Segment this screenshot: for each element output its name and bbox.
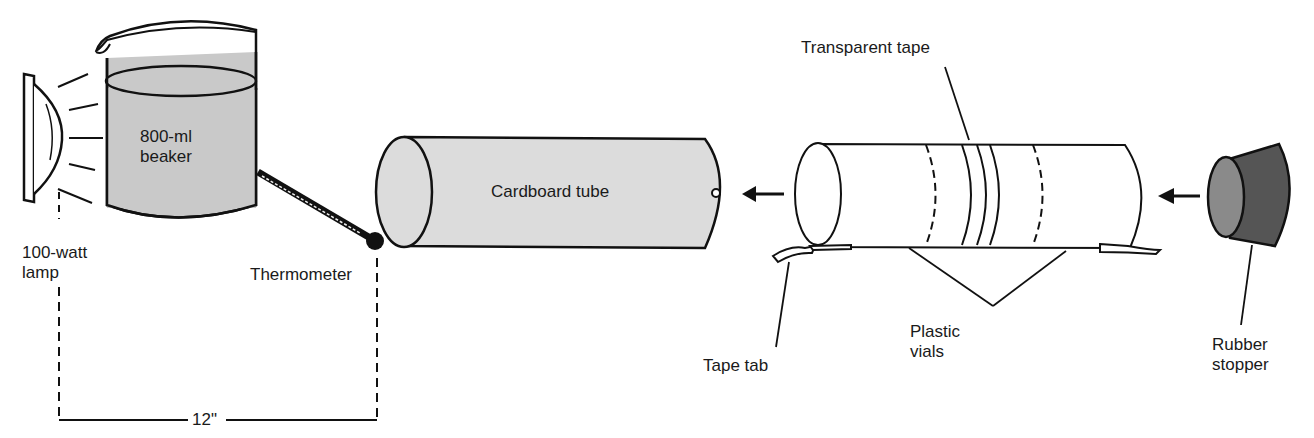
- beaker-label-line2: beaker: [140, 147, 192, 167]
- arrow-left-icon: [1158, 188, 1200, 204]
- beaker-label: 800-ml beaker: [140, 127, 192, 167]
- thermometer-label: Thermometer: [250, 265, 352, 285]
- vial-assembly-icon: [773, 143, 1160, 262]
- arrow-left-icon: [742, 186, 784, 202]
- plastic-vials-label-line2: vials: [910, 342, 960, 362]
- rubber-stopper-label: Rubber stopper: [1212, 335, 1269, 375]
- rubber-stopper-label-line1: Rubber: [1212, 335, 1269, 355]
- rubber-stopper-label-line2: stopper: [1212, 355, 1269, 375]
- lamp-label: 100-watt lamp: [22, 243, 87, 283]
- distance-indicator: [59, 192, 377, 420]
- rubber-stopper-icon: [1208, 144, 1290, 246]
- plastic-vials-label: Plastic vials: [910, 322, 960, 362]
- thermometer-icon: [258, 172, 384, 250]
- lamp-label-line1: 100-watt: [22, 243, 87, 263]
- tape-tab-label: Tape tab: [703, 356, 768, 376]
- lamp-icon: [24, 74, 62, 202]
- plastic-vials-label-line1: Plastic: [910, 322, 960, 342]
- distance-label: 12": [192, 410, 217, 430]
- beaker-label-line1: 800-ml: [140, 127, 192, 147]
- beaker-icon: [96, 21, 256, 217]
- light-rays-icon: [58, 74, 103, 203]
- transparent-tape-label: Transparent tape: [801, 38, 930, 58]
- apparatus-diagram: [0, 0, 1314, 438]
- cardboard-tube-label: Cardboard tube: [491, 182, 609, 202]
- lamp-label-line2: lamp: [22, 263, 87, 283]
